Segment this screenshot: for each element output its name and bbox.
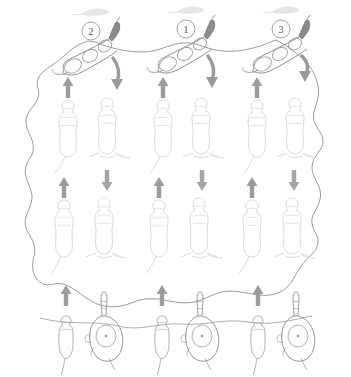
arrow-down-curved [206,56,218,88]
wisp-shape [168,7,204,13]
middle-row-2 [51,198,315,273]
figure-canvas: 2 1 3 [0,0,351,377]
arrow-up-icon [154,177,165,198]
bottom-row [40,292,315,375]
arrow-up-icon [158,77,169,98]
figure-root: 2 1 3 [0,0,351,377]
arrow-down-icon [197,170,208,191]
arrow-up-icon [61,285,72,306]
arrow-up-icon [157,285,168,306]
middle-row-1 [55,98,318,173]
enclosure-outline [25,40,323,307]
arrow-down-icon [289,170,300,191]
arrow-up-icon [59,177,70,198]
step-marker-label: 3 [279,24,284,35]
step-marker-1: 1 [177,20,195,38]
step-marker-label: 1 [184,24,189,35]
step-marker-2: 2 [82,22,100,40]
step-marker-label: 2 [89,26,94,37]
arrow-down-curved [111,58,123,90]
wisp-shape [73,9,109,15]
arrow-down-icon [102,170,113,191]
arrow-up-icon [252,77,263,98]
wisp-row [73,7,299,15]
arrow-down-curved [299,56,311,82]
arrow-up-icon [247,177,258,198]
wisp-shape [263,7,299,13]
arrow-up-icon [63,77,74,98]
step-marker-3: 3 [272,20,290,38]
straight-arrows [59,77,300,306]
curved-arrows [111,56,311,90]
